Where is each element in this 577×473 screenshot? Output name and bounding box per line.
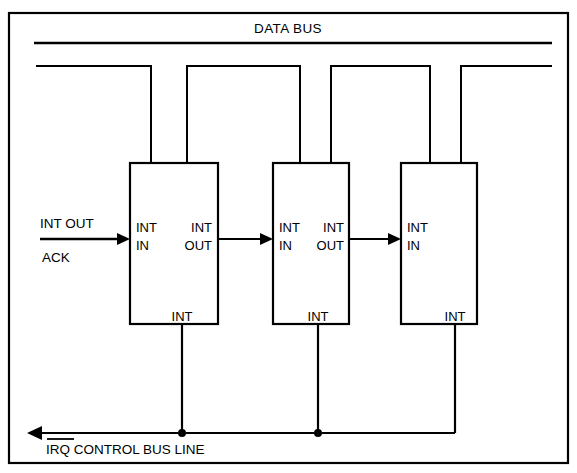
interrupt-daisy-chain-diagram: DATA BUS INT IN INT OUT INT INT IN INT O… — [0, 0, 577, 473]
chain-arrow-1-head — [260, 233, 273, 245]
data-bus-branch-4 — [461, 66, 552, 163]
device-1-int-bottom: INT — [172, 309, 193, 324]
data-bus-branch-3 — [331, 66, 430, 163]
data-bus-branch-2 — [187, 66, 300, 163]
int-out-ack-arrow-head — [117, 233, 130, 245]
chain-arrow-2-head — [388, 233, 401, 245]
device-1-int-out-line2: OUT — [185, 238, 213, 253]
irq-junction-dot-1 — [178, 429, 186, 437]
device-3-int-bottom: INT — [445, 309, 466, 324]
device-1-int-in-line2: IN — [136, 238, 149, 253]
device-2-int-out-line1: INT — [323, 220, 344, 235]
diagram-canvas: DATA BUS INT IN INT OUT INT INT IN INT O… — [0, 0, 577, 473]
data-bus-branch-1 — [36, 66, 151, 163]
device-3-int-in-line2: IN — [407, 238, 420, 253]
device-3-int-in-line1: INT — [407, 220, 428, 235]
device-2-int-in-line2: IN — [279, 238, 292, 253]
irq-control-bus-label: IRQ CONTROL BUS LINE — [46, 442, 205, 457]
irq-junction-dot-2 — [314, 429, 322, 437]
irq-arrow-head — [27, 426, 42, 440]
device-1-int-out-line1: INT — [191, 220, 212, 235]
data-bus-label: DATA BUS — [254, 21, 322, 36]
device-2-int-bottom: INT — [308, 309, 329, 324]
device-1-int-in-line1: INT — [136, 220, 157, 235]
ack-signal-label: ACK — [42, 250, 70, 265]
int-out-signal-label: INT OUT — [40, 216, 94, 231]
device-2-int-in-line1: INT — [279, 220, 300, 235]
device-2-int-out-line2: OUT — [317, 238, 345, 253]
